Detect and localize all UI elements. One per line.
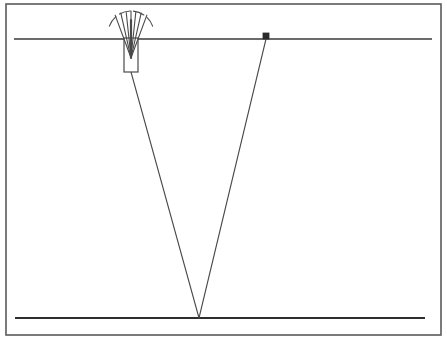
receiver-square-marker bbox=[263, 33, 269, 39]
line-diagram-svg bbox=[0, 0, 447, 341]
figure-canvas bbox=[0, 0, 447, 341]
figure-background bbox=[0, 0, 447, 341]
